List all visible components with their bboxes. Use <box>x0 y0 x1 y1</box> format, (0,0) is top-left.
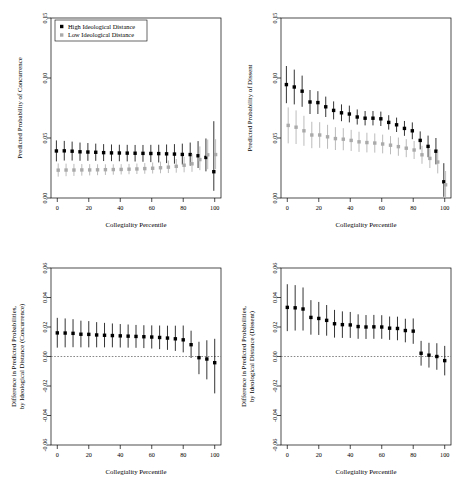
data-point <box>103 334 106 337</box>
data-point <box>302 129 305 132</box>
legend-marker <box>60 25 63 28</box>
data-point <box>420 153 423 156</box>
data-point <box>182 164 185 167</box>
x-tick-label: 20 <box>86 204 92 211</box>
x-tick-label: 0 <box>56 451 59 458</box>
x-tick-label: 100 <box>210 204 219 211</box>
data-point <box>86 150 89 153</box>
series-1 <box>55 121 216 191</box>
data-point <box>326 135 329 138</box>
data-point <box>143 167 146 170</box>
x-tick-label: 20 <box>316 451 322 458</box>
data-point <box>324 105 327 108</box>
x-tick-label: 40 <box>347 204 353 211</box>
y-tick-label: 0.05 <box>41 133 48 144</box>
data-point <box>411 129 414 132</box>
data-point <box>126 151 129 154</box>
data-point <box>365 141 368 144</box>
data-point <box>119 168 122 171</box>
x-tick-label: 40 <box>117 204 123 211</box>
data-point <box>434 150 437 153</box>
data-point <box>349 139 352 142</box>
data-point <box>380 325 383 328</box>
data-point <box>381 142 384 145</box>
data-point <box>356 325 359 328</box>
plot-frame <box>51 18 221 198</box>
data-point <box>419 352 422 355</box>
data-point <box>157 152 160 155</box>
data-point <box>389 144 392 147</box>
y-tick-label: 0.06 <box>271 263 278 274</box>
data-point <box>72 168 75 171</box>
y-tick-label: 0.00 <box>41 193 48 204</box>
data-point <box>387 121 390 124</box>
data-point <box>151 167 154 170</box>
x-tick-label: 40 <box>347 451 353 458</box>
x-axis-title: Collegiality Percentile <box>336 468 397 475</box>
x-tick-label: 80 <box>180 451 186 458</box>
x-tick-label: 80 <box>410 204 416 211</box>
legend-label: Low Ideological Distance <box>68 31 134 38</box>
data-point <box>318 133 321 136</box>
data-point <box>300 90 303 93</box>
data-point <box>364 325 367 328</box>
series-1 <box>285 66 446 197</box>
x-tick-label: 20 <box>316 204 322 211</box>
y-axis-title: by Ideological Distance (Dissent) <box>248 311 256 402</box>
legend-label: High Ideological Distance <box>68 23 135 30</box>
data-point <box>348 112 351 115</box>
x-tick-label: 80 <box>180 204 186 211</box>
data-point <box>55 149 58 152</box>
data-point <box>396 327 399 330</box>
data-point <box>349 323 352 326</box>
series-2 <box>286 107 447 197</box>
y-axis-title: Difference in Predicted Probabilities, <box>240 306 247 407</box>
data-point <box>341 323 344 326</box>
data-point <box>435 355 438 358</box>
data-point <box>293 306 296 309</box>
data-point <box>426 145 429 148</box>
data-point <box>64 168 67 171</box>
x-tick-label: 60 <box>149 451 155 458</box>
x-tick-label: 100 <box>440 204 449 211</box>
data-point <box>310 133 313 136</box>
x-tick-label: 60 <box>149 204 155 211</box>
data-point <box>342 138 345 141</box>
data-point <box>442 180 445 183</box>
data-point <box>88 168 91 171</box>
data-point <box>214 153 217 156</box>
data-point <box>357 140 360 143</box>
data-point <box>286 306 289 309</box>
y-tick-label: 0.00 <box>271 193 278 204</box>
data-point <box>428 157 431 160</box>
figure-container: 0.000.050.100.15020406080100Predicted Pr… <box>0 0 460 497</box>
x-tick-label: 0 <box>286 204 289 211</box>
data-point <box>119 334 122 337</box>
x-axis-title: Collegiality Percentile <box>106 221 167 228</box>
data-point <box>356 115 359 118</box>
data-point <box>87 333 90 336</box>
y-tick-label: 0.15 <box>41 13 48 24</box>
data-point <box>301 307 304 310</box>
x-tick-label: 100 <box>440 451 449 458</box>
x-tick-label: 0 <box>56 204 59 211</box>
chart-svg: -0.06-0.04-0.020.000.020.040.06020406080… <box>230 250 460 497</box>
y-tick-label: 0.15 <box>271 13 278 24</box>
data-point <box>325 319 328 322</box>
data-point <box>395 123 398 126</box>
data-point <box>197 356 200 359</box>
data-point <box>127 168 130 171</box>
data-point <box>285 83 288 86</box>
data-point <box>317 317 320 320</box>
x-tick-label: 60 <box>379 204 385 211</box>
data-point <box>412 148 415 151</box>
data-point <box>80 168 83 171</box>
data-point <box>388 326 391 329</box>
y-tick-label: 0.04 <box>41 292 48 303</box>
y-axis-title: Predicted Probability of Dissent <box>246 64 253 151</box>
y-tick-label: 0.04 <box>271 292 278 303</box>
series-1 <box>286 284 447 375</box>
data-point <box>404 329 407 332</box>
data-point <box>158 336 161 339</box>
data-point <box>308 100 311 103</box>
